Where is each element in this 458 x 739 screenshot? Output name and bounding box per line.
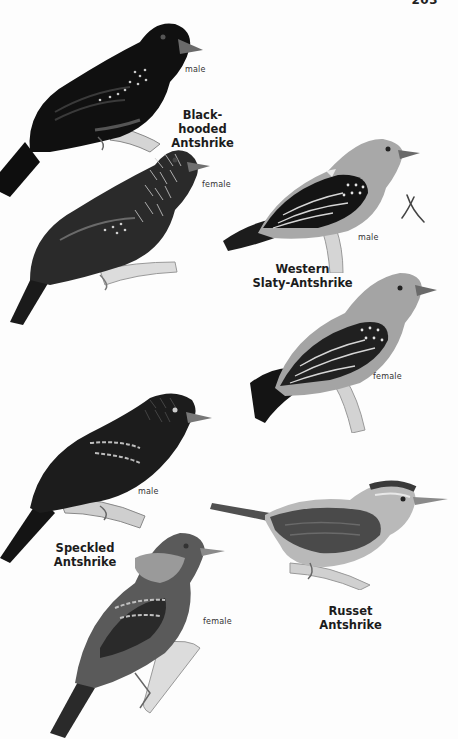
black-hooded-antshrike-female-illustration [5,140,215,330]
species-name-line1: Black-hooded [160,108,245,136]
sex-label-speckled-male: male [138,487,159,496]
sex-label-speckled-female: female [203,617,232,626]
sex-label-western-slaty-female: female [373,372,402,381]
western-slaty-antshrike-female-illustration [250,268,440,433]
page-number: 203 [411,0,438,7]
field-guide-page: 203 male Black-hooded Antshrike [0,0,458,739]
species-name-line1: Russet [313,604,388,618]
sex-label-black-hooded-male: male [185,65,206,74]
speckled-antshrike-female-illustration [40,528,230,738]
species-label-russet-antshrike: Russet Antshrike [313,604,388,632]
western-slaty-antshrike-male-illustration [218,133,423,273]
species-name-line2: Antshrike [313,618,388,632]
handwritten-x-mark [398,192,428,227]
sex-label-western-slaty-male: male [358,233,379,242]
russet-antshrike-illustration [210,475,450,590]
